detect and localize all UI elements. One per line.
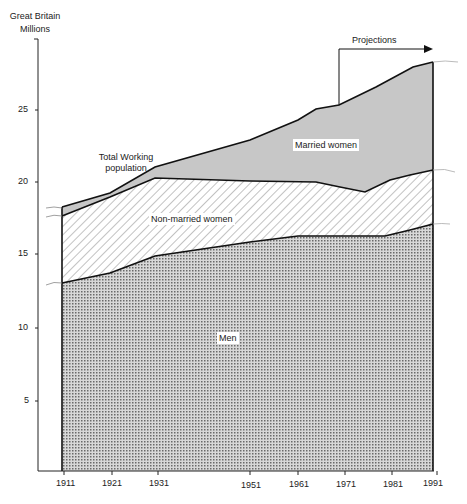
x-tick-1931: 1931 [149, 478, 169, 488]
non-married-women-label: Non-married women [149, 213, 235, 225]
title-line2: Millions [2, 23, 68, 36]
y-tick-25: 25 [18, 104, 28, 114]
x-tick-1951: 1951 [241, 480, 261, 490]
y-tick-5: 5 [24, 395, 29, 405]
title-line1: Great Britain [2, 10, 68, 23]
y-tick-10: 10 [18, 322, 28, 332]
men-label: Men [217, 332, 239, 344]
projections-label: Projections [352, 35, 397, 45]
y-tick-15: 15 [18, 248, 28, 258]
chart-title: Great Britain Millions [2, 10, 68, 36]
total-working-population-label: Total Working population [90, 152, 162, 174]
x-tick-1981: 1981 [383, 479, 403, 489]
married-women-label: Married women [293, 139, 359, 151]
x-tick-1991: 1991 [423, 478, 443, 488]
x-tick-1911: 1911 [56, 478, 75, 488]
chart-canvas [0, 0, 467, 504]
total-label-line2: population [90, 163, 162, 174]
y-tick-20: 20 [18, 176, 28, 186]
x-tick-1961: 1961 [289, 479, 309, 489]
x-tick-1921: 1921 [102, 478, 122, 488]
total-label-line1: Total Working [90, 152, 162, 163]
x-tick-1971: 1971 [336, 479, 356, 489]
